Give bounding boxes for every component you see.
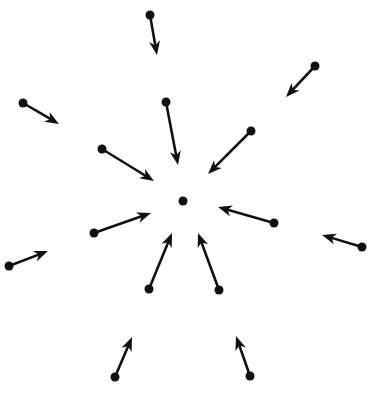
arrow-shaft (149, 242, 168, 289)
arrow-shaft (9, 255, 39, 266)
arrow-shaft (239, 345, 250, 376)
arrow-inner-left (90, 212, 152, 237)
arrow-tail-dot (270, 219, 279, 228)
arrow-shaft (166, 102, 176, 155)
arrow-tail-dot (246, 372, 255, 381)
arrow-inner-top (162, 98, 181, 166)
arrow-tail-dot (111, 373, 120, 382)
arrow-tail-dot (311, 62, 320, 71)
arrow-tail-dot (146, 11, 155, 20)
arrow-shaft (115, 346, 128, 377)
arrow-inner-lower-left (145, 233, 173, 294)
arrow-top-right-far (286, 62, 320, 98)
arrow-shaft (215, 131, 251, 167)
arrow-tail-dot (98, 145, 107, 154)
arrow-bottom-left (111, 337, 133, 382)
arrow-inner-lower-right (198, 233, 224, 295)
arrow-head-icon (139, 169, 154, 181)
arrow-shaft (150, 15, 155, 45)
arrow-tail-dot (247, 127, 256, 136)
arrow-shaft (332, 238, 362, 247)
arrow-left-far (5, 251, 49, 271)
arrow-tail-dot (145, 285, 154, 294)
arrows-group (5, 11, 367, 382)
arrow-tail-dot (5, 262, 14, 271)
arrow-right-far (322, 234, 367, 252)
arrow-top (146, 11, 161, 56)
arrow-tail-dot (90, 229, 99, 238)
arrow-inner-right (218, 206, 279, 228)
center-point (179, 197, 188, 206)
arrow-shaft (293, 66, 315, 90)
arrow-shaft (102, 149, 145, 176)
arrow-left-upper-far (19, 99, 60, 125)
arrow-shaft (228, 210, 274, 223)
arrow-tail-dot (162, 98, 171, 107)
arrow-shaft (23, 103, 50, 119)
arrow-shaft (201, 242, 219, 290)
arrow-tail-dot (19, 99, 28, 108)
arrow-tail-dot (358, 243, 367, 252)
arrow-shaft (94, 216, 142, 233)
vector-field-diagram (0, 0, 373, 396)
arrow-tail-dot (215, 286, 224, 295)
arrow-inner-upper-right (208, 127, 256, 175)
arrow-bottom-right (235, 336, 254, 381)
arrow-inner-upper-left (98, 145, 155, 182)
